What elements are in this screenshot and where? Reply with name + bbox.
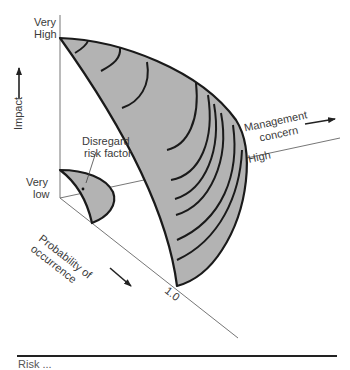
high-risk-surface-fill xyxy=(60,38,247,286)
impact-axis-label: Impact xyxy=(12,68,24,130)
probability-label: Probability of occurrence xyxy=(29,232,95,291)
disregard-label-1: Disregard xyxy=(82,135,130,147)
very-high-label-2: High xyxy=(34,28,57,40)
disregard-label-2: risk factor xyxy=(84,147,132,159)
very-low-label-1: Very xyxy=(26,176,49,188)
high-risk-surface xyxy=(60,38,247,286)
management-arrow-icon xyxy=(305,119,335,124)
svg-text:Impact: Impact xyxy=(12,97,24,130)
high-tick-label: High xyxy=(247,149,272,165)
management-concern-label: Management concern xyxy=(243,108,311,146)
figure-caption: Risk ... xyxy=(18,358,52,370)
very-high-label-1: Very xyxy=(34,16,57,28)
very-low-label-2: low xyxy=(33,188,50,200)
probability-tick-label: 1.0 xyxy=(163,284,182,303)
probability-arrow-icon xyxy=(110,268,131,286)
risk-point xyxy=(82,188,85,191)
